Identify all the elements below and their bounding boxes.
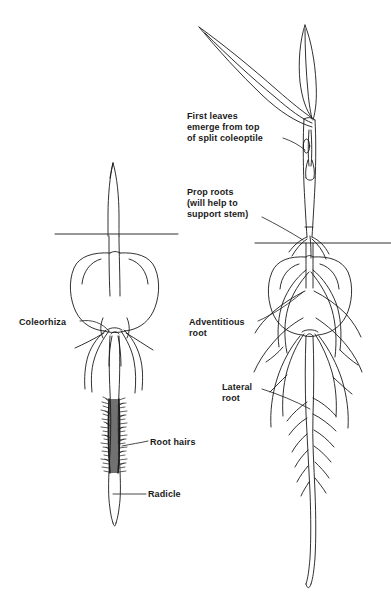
- seedling-diagram: [0, 0, 391, 610]
- label-first-leaves: First leaves emerge from top of split co…: [187, 111, 263, 144]
- label-lateral-root: Lateral root: [222, 382, 252, 404]
- label-adventitious-root: Adventitious root: [189, 317, 245, 339]
- label-coleorhiza: Coleorhiza: [19, 317, 66, 328]
- diagram-background: [0, 0, 391, 610]
- label-radicle: Radicle: [148, 489, 181, 500]
- label-prop-roots: Prop roots (will help to support stem): [187, 187, 248, 220]
- label-root-hairs: Root hairs: [150, 437, 196, 448]
